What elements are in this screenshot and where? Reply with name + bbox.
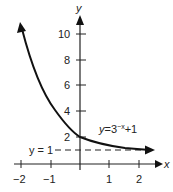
y-axis-arrow-icon bbox=[76, 15, 84, 25]
x-tick-label: −1 bbox=[43, 173, 56, 185]
x-tick-label: 2 bbox=[136, 173, 142, 185]
x-tick-label: 1 bbox=[106, 173, 112, 185]
curve-equation: y=3−x+1 bbox=[98, 123, 137, 135]
y-axis-label: y bbox=[75, 2, 83, 14]
y-ticks bbox=[76, 34, 86, 137]
curve-end-arrow-icon bbox=[145, 146, 155, 155]
x-axis-label: x bbox=[163, 158, 170, 170]
y-tick-label: 4 bbox=[64, 105, 70, 117]
x-tick-label: −2 bbox=[13, 173, 26, 185]
exponential-graph: x y −2 −1 1 2 10 8 6 4 2 y = 1 y=3−x+1 bbox=[0, 0, 173, 192]
x-axis-arrow-icon bbox=[155, 160, 163, 168]
y-tick-label: 6 bbox=[64, 79, 70, 91]
y-tick-label: 8 bbox=[64, 54, 70, 66]
y-tick-label: 10 bbox=[58, 28, 70, 40]
asymptote-label: y = 1 bbox=[29, 144, 53, 156]
curve-start-arrow-icon bbox=[17, 22, 26, 33]
y-tick-label: 2 bbox=[64, 131, 70, 143]
